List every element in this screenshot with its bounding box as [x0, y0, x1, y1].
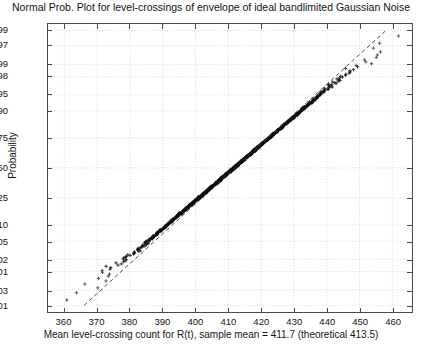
x-tick-mark-top [327, 24, 328, 29]
y-tick-mark-right [407, 291, 412, 292]
y-tick-label: 0.95 [0, 89, 8, 99]
y-tick-label: 0.001 [0, 301, 8, 311]
y-tick-mark-right [407, 45, 412, 46]
y-tick-mark [47, 242, 52, 243]
x-axis-label: Mean level-crossing count for R(t), samp… [0, 329, 422, 340]
y-tick-label: 0.90 [0, 106, 8, 116]
y-tick-mark-right [407, 272, 412, 273]
y-tick-label: 0.05 [0, 237, 8, 247]
x-tick-mark [294, 308, 295, 313]
x-tick-mark-top [195, 24, 196, 29]
y-tick-mark [47, 138, 52, 139]
y-tick-label: 0.997 [0, 40, 8, 50]
x-tick-mark [393, 308, 394, 313]
y-tick-label: 0.98 [0, 71, 8, 81]
y-tick-mark [47, 76, 52, 77]
x-tick-mark [228, 308, 229, 313]
x-tick-mark-top [393, 24, 394, 29]
y-tick-mark-right [407, 242, 412, 243]
y-tick-mark [47, 45, 52, 46]
plot-area [47, 23, 413, 313]
x-tick-mark [261, 308, 262, 313]
x-tick-mark [195, 308, 196, 313]
x-tick-mark [162, 308, 163, 313]
x-tick-mark-top [162, 24, 163, 29]
y-tick-label: 0.01 [0, 267, 8, 277]
y-tick-label: 0.02 [0, 255, 8, 265]
y-tick-mark [47, 272, 52, 273]
y-tick-mark-right [407, 30, 412, 31]
y-tick-mark [47, 30, 52, 31]
y-tick-label: 0.003 [0, 286, 8, 296]
y-tick-label: 0.10 [0, 220, 8, 230]
y-axis-label: Probability [7, 116, 18, 196]
data-points-layer [48, 24, 412, 312]
y-tick-mark [47, 291, 52, 292]
y-tick-mark-right [407, 64, 412, 65]
y-tick-label: 0.99 [0, 59, 8, 69]
x-tick-mark [97, 308, 98, 313]
chart-title: Normal Prob. Plot for level-crossings of… [0, 1, 422, 14]
x-tick-mark-top [228, 24, 229, 29]
y-tick-mark-right [407, 111, 412, 112]
y-tick-mark [47, 260, 52, 261]
y-tick-mark-right [407, 198, 412, 199]
x-tick-mark [64, 308, 65, 313]
y-tick-mark [47, 111, 52, 112]
y-tick-mark-right [407, 94, 412, 95]
x-tick-mark-top [294, 24, 295, 29]
y-tick-mark-right [407, 306, 412, 307]
y-tick-mark-right [407, 168, 412, 169]
x-tick-mark-top [360, 24, 361, 29]
y-tick-mark [47, 94, 52, 95]
x-tick-mark-top [129, 24, 130, 29]
x-tick-label: 460 [373, 316, 413, 327]
y-tick-mark-right [407, 138, 412, 139]
y-tick-mark [47, 225, 52, 226]
x-tick-mark [327, 308, 328, 313]
x-tick-mark-top [261, 24, 262, 29]
normal-probability-plot-figure: Normal Prob. Plot for level-crossings of… [0, 0, 422, 347]
y-tick-mark-right [407, 225, 412, 226]
y-tick-mark [47, 64, 52, 65]
y-tick-mark-right [407, 260, 412, 261]
y-tick-mark-right [407, 76, 412, 77]
y-tick-mark [47, 168, 52, 169]
x-tick-mark [360, 308, 361, 313]
y-tick-mark [47, 306, 52, 307]
y-tick-label: 0.999 [0, 25, 8, 35]
x-tick-mark [129, 308, 130, 313]
x-tick-mark-top [64, 24, 65, 29]
x-tick-mark-top [97, 24, 98, 29]
y-tick-mark [47, 198, 52, 199]
